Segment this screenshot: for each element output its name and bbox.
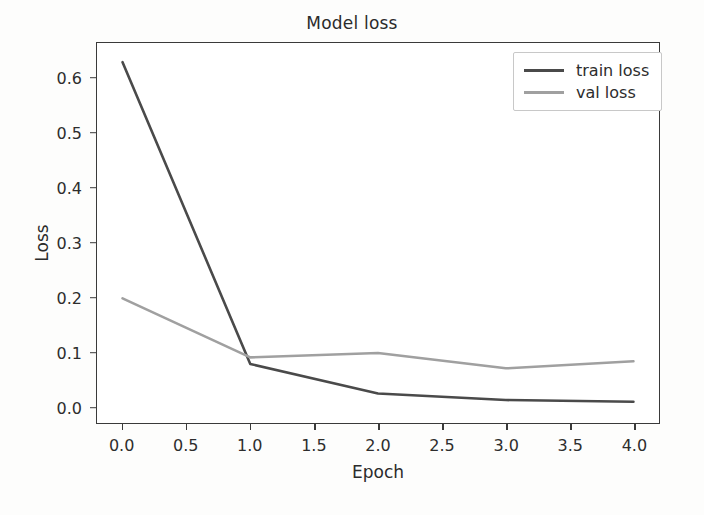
x-tick-label: 1.5 xyxy=(284,436,344,455)
x-tick-mark xyxy=(570,424,572,430)
x-tick-mark xyxy=(378,424,380,430)
x-tick-mark xyxy=(442,424,444,430)
y-tick-label: 0.5 xyxy=(36,123,82,142)
y-tick-label: 0.3 xyxy=(36,233,82,252)
legend-swatch-train-loss xyxy=(524,69,564,72)
legend-item-train-loss: train loss xyxy=(524,59,649,81)
legend-item-val-loss: val loss xyxy=(524,81,649,103)
y-tick-label: 0.4 xyxy=(36,178,82,197)
legend-label-train-loss: train loss xyxy=(576,61,649,80)
x-tick-label: 2.5 xyxy=(412,436,472,455)
legend-swatch-val-loss xyxy=(524,91,564,94)
y-tick-label: 0.1 xyxy=(36,343,82,362)
x-tick-label: 0.5 xyxy=(156,436,216,455)
x-tick-mark xyxy=(634,424,636,430)
x-tick-mark xyxy=(314,424,316,430)
x-tick-label: 4.0 xyxy=(604,436,664,455)
x-tick-mark xyxy=(506,424,508,430)
x-tick-label: 3.5 xyxy=(540,436,600,455)
chart-title: Model loss xyxy=(0,13,704,33)
x-tick-label: 3.0 xyxy=(476,436,536,455)
x-tick-label: 1.0 xyxy=(220,436,280,455)
x-tick-label: 2.0 xyxy=(348,436,408,455)
figure-canvas: Model loss Loss 0.00.10.20.30.40.50.6 0.… xyxy=(0,0,704,515)
x-tick-mark xyxy=(250,424,252,430)
series-line-val-loss xyxy=(123,298,634,368)
y-tick-label: 0.6 xyxy=(36,68,82,87)
x-tick-label: 0.0 xyxy=(92,436,152,455)
series-line-train-loss xyxy=(123,62,634,402)
legend-label-val-loss: val loss xyxy=(576,83,636,102)
y-tick-label: 0.0 xyxy=(36,398,82,417)
x-tick-mark xyxy=(186,424,188,430)
x-tick-mark xyxy=(122,424,124,430)
x-axis-label: Epoch xyxy=(96,462,660,482)
y-tick-label: 0.2 xyxy=(36,288,82,307)
chart-legend: train loss val loss xyxy=(513,52,662,111)
